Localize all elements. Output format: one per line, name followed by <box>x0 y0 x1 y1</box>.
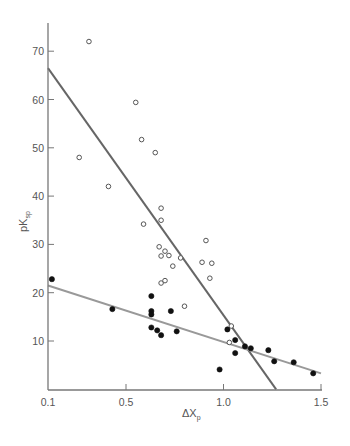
open-circle-point <box>200 260 205 265</box>
axes: 0.10.51.01.5 10203040506070 <box>32 23 328 408</box>
x-tick-label: 0.5 <box>119 396 134 408</box>
filled-circle-point <box>110 307 115 312</box>
filled-circle-point <box>149 293 154 298</box>
open-circle-point <box>133 100 138 105</box>
y-tick-label: 60 <box>32 94 44 106</box>
filled-circle-point <box>291 360 296 365</box>
x-tick-label: 1.5 <box>314 396 329 408</box>
filled-circle-point <box>242 344 247 349</box>
filled-circle-point <box>248 346 253 351</box>
open-circle-point <box>159 254 164 259</box>
filled-circle-point <box>174 329 179 334</box>
x-tick-label: 0.1 <box>41 396 56 408</box>
open-circle-point <box>139 137 144 142</box>
open-circle-point <box>171 264 176 269</box>
open-circle-point <box>159 218 164 223</box>
open-circle-point <box>106 184 111 189</box>
filled-circle-point <box>272 359 277 364</box>
fit-line <box>48 285 321 373</box>
filled-circle-point <box>159 333 164 338</box>
y-tick-label: 50 <box>32 142 44 154</box>
open-circle-point <box>87 39 92 44</box>
open-circle-point <box>163 249 168 254</box>
filled-circle-point <box>233 337 238 342</box>
open-circle-point <box>163 278 168 283</box>
filled-circle-point <box>311 371 316 376</box>
filled-circle-point <box>49 277 54 282</box>
open-circle-point <box>167 253 172 258</box>
open-circle-point <box>178 256 183 261</box>
filled-circle-point <box>168 308 173 313</box>
open-circle-point <box>227 340 232 345</box>
y-tick-label: 70 <box>32 45 44 57</box>
open-circle-point <box>182 304 187 309</box>
y-ticks: 10203040506070 <box>32 45 54 347</box>
filled-circle-point <box>266 348 271 353</box>
filled-circle-point <box>225 327 230 332</box>
filled-circle-point <box>217 367 222 372</box>
y-tick-label: 10 <box>32 335 44 347</box>
filled-circle-point <box>233 350 238 355</box>
y-tick-label: 20 <box>32 287 44 299</box>
filled-circle-point <box>149 312 154 317</box>
data-points <box>49 39 316 376</box>
open-circle-point <box>204 238 209 243</box>
y-axis-label: pKsp <box>17 211 32 232</box>
open-circle-point <box>157 245 162 250</box>
y-tick-label: 40 <box>32 190 44 202</box>
x-tick-label: 1.0 <box>216 396 231 408</box>
filled-circle-point <box>149 325 154 330</box>
scatter-chart: 0.10.51.01.5 10203040506070 ΔXp pKsp <box>0 0 350 446</box>
open-circle-point <box>153 150 158 155</box>
open-circle-point <box>77 155 82 160</box>
filled-circle-point <box>155 328 160 333</box>
x-axis-label: ΔXp <box>182 407 201 422</box>
open-circle-point <box>210 261 215 266</box>
y-tick-label: 30 <box>32 238 44 250</box>
open-circle-point <box>141 222 146 227</box>
open-circle-point <box>208 276 213 281</box>
fit-line <box>48 68 276 389</box>
open-circle-point <box>159 206 164 211</box>
x-ticks: 0.10.51.01.5 <box>41 384 329 408</box>
fit-lines <box>48 68 321 389</box>
